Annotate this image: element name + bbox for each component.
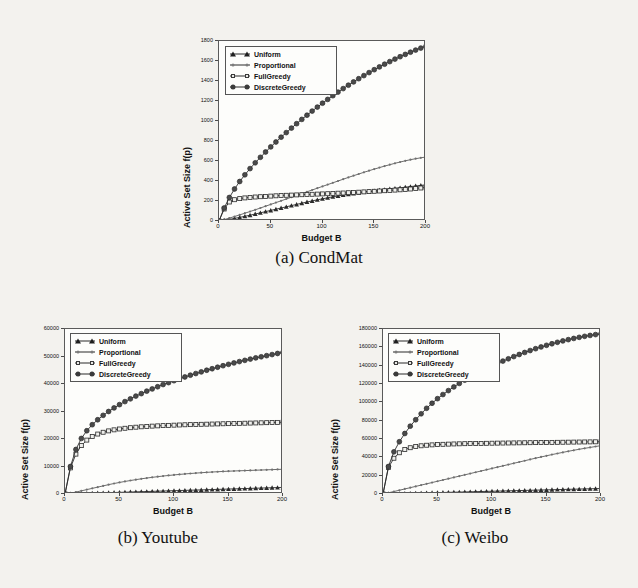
x-tick-mark [382,493,383,496]
plot-area-youtube: Uniform Proportional FullGreedy [64,328,282,493]
legend-item-uniform: Uniform [75,337,176,345]
legend-marker-discretegreedy [75,370,95,378]
legend-marker-discretegreedy [393,370,413,378]
y-tick-mark [61,411,64,412]
legend-marker-uniform [230,50,250,58]
y-tick-mark [379,383,382,384]
legend-marker-discretegreedy [230,83,250,91]
y-tick-label: 1000 [170,117,213,123]
y-tick-mark [61,438,64,439]
x-axis-label-youtube: Budget B [64,506,282,516]
x-tick-label: 50 [433,496,440,502]
legend-label-discretegreedy: DiscreteGreedy [254,84,306,91]
legend-item-proportional: Proportional [393,348,494,356]
y-tick-mark [379,456,382,457]
y-tick-mark [215,60,218,61]
y-axis-label-youtube: Active Set Size f(p) [20,419,30,500]
x-tick-label: 0 [216,223,219,229]
y-tick-label: 1400 [170,77,213,83]
x-tick-mark [270,220,271,223]
y-tick-label: 120000 [320,380,377,386]
legend-item-proportional: Proportional [230,61,331,69]
x-tick-label: 150 [368,223,378,229]
legend-item-discretegreedy: DiscreteGreedy [75,370,176,378]
y-tick-mark [215,200,218,201]
x-tick-mark [282,493,283,496]
legend-marker-fullgreedy [75,359,95,367]
y-tick-mark [215,80,218,81]
y-tick-mark [61,466,64,467]
legend-condmat: Uniform Proportional F [225,46,337,95]
y-tick-mark [379,328,382,329]
x-tick-label: 50 [115,496,122,502]
series-fullgreedy [65,420,281,492]
x-tick-label: 100 [486,496,496,502]
plot-area-weibo: Uniform Proportional FullGreedy [382,328,600,493]
x-tick-mark [173,493,174,496]
x-tick-mark [373,220,374,223]
legend-youtube: Uniform Proportional FullGreedy [70,333,182,382]
y-tick-label: 400 [170,177,213,183]
y-tick-label: 20000 [320,472,377,478]
x-tick-label: 100 [168,496,178,502]
x-tick-mark [119,493,120,496]
plot-area-condmat: Uniform Proportional F [218,40,425,220]
y-axis-label-weibo: Active Set Size f(p) [330,419,340,500]
legend-label-uniform: Uniform [99,338,126,345]
series-fullgreedy [383,440,599,492]
y-tick-mark [215,140,218,141]
x-tick-mark [437,493,438,496]
legend-marker-uniform [393,337,413,345]
y-tick-mark [379,420,382,421]
legend-label-uniform: Uniform [417,338,444,345]
legend-item-fullgreedy: FullGreedy [393,359,494,367]
x-axis-label-condmat: Budget B [218,233,425,243]
y-tick-label: 60000 [8,325,59,331]
y-tick-label: 600 [170,157,213,163]
y-tick-mark [215,180,218,181]
y-tick-mark [61,328,64,329]
panel-youtube: Active Set Size f(p) Uniform Proportiona… [8,318,308,523]
caption-condmat: (a) CondMat [169,248,469,268]
legend-marker-proportional [230,61,250,69]
legend-marker-fullgreedy [230,72,250,80]
x-tick-mark [322,220,323,223]
y-tick-mark [379,401,382,402]
legend-marker-fullgreedy [393,359,413,367]
y-tick-mark [379,346,382,347]
legend-item-uniform: Uniform [230,50,331,58]
figure-root: Active Set Size f(p) Uniform [0,0,638,588]
y-tick-label: 50000 [8,353,59,359]
y-tick-mark [61,356,64,357]
legend-marker-uniform [75,337,95,345]
legend-item-discretegreedy: DiscreteGreedy [230,83,331,91]
y-tick-label: 1200 [170,97,213,103]
y-tick-mark [215,160,218,161]
x-axis-label-weibo: Budget B [382,506,600,516]
y-tick-label: 200 [170,197,213,203]
y-tick-label: 180000 [320,325,377,331]
y-tick-label: 100000 [320,398,377,404]
y-tick-label: 30000 [8,408,59,414]
x-tick-label: 150 [540,496,550,502]
legend-item-fullgreedy: FullGreedy [75,359,176,367]
y-tick-label: 1800 [170,37,213,43]
legend-item-uniform: Uniform [393,337,494,345]
y-tick-label: 60000 [320,435,377,441]
x-tick-mark [546,493,547,496]
panel-condmat: Active Set Size f(p) Uniform [170,28,470,278]
x-tick-label: 0 [380,496,383,502]
legend-item-fullgreedy: FullGreedy [230,72,331,80]
caption-weibo: (c) Weibo [320,528,630,548]
y-tick-label: 0 [8,490,59,496]
y-tick-label: 0 [170,217,213,223]
x-tick-mark [218,220,219,223]
x-tick-label: 200 [420,223,430,229]
y-tick-label: 160000 [320,343,377,349]
series-uniform [65,485,281,492]
series-proportional [219,156,424,219]
y-tick-label: 140000 [320,362,377,368]
y-tick-label: 80000 [320,417,377,423]
series-proportional [383,445,599,493]
legend-marker-proportional [393,348,413,356]
